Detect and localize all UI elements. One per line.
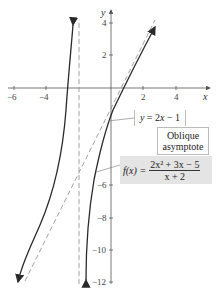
function-equation-label: f(x) = 2x² + 3x − 5 x + 2	[120, 156, 212, 184]
fx-numerator: 2x² + 3x − 5	[149, 159, 200, 171]
function-curve-left-branch	[18, 25, 73, 282]
y-axis-label: y	[100, 7, 106, 18]
fx-fraction: 2x² + 3x − 5 x + 2	[149, 159, 200, 182]
oblique-asymptote-label: Oblique asymptote	[157, 127, 209, 155]
y-tick-label: −12	[92, 277, 106, 287]
x-tick-label: 2	[141, 92, 146, 102]
oblique-label-line1: Oblique	[158, 130, 208, 141]
asymptote-equation-label: y = 2x − 1	[134, 110, 186, 126]
y-tick-label: −6	[97, 180, 107, 190]
function-curve-right-branch	[86, 27, 155, 280]
y-tick-label: 2	[102, 50, 107, 60]
x-tick-label: −6	[7, 92, 17, 102]
x-tick-label: 4	[174, 92, 179, 102]
oblique-asymptote	[25, 20, 155, 281]
y-tick-label: −10	[92, 245, 107, 255]
y-tick-label: −8	[97, 213, 107, 223]
y-tick-label: 4	[102, 18, 107, 28]
x-tick-label: −4	[39, 92, 49, 102]
fx-denominator: x + 2	[164, 171, 185, 182]
fx-leader-line	[96, 165, 120, 172]
eq-part: = 2	[144, 112, 160, 123]
fx-lhs: f(x) =	[123, 165, 146, 176]
asymptote-leader-line	[108, 118, 134, 121]
oblique-label-line2: asymptote	[158, 141, 208, 152]
x-axis-label: x	[202, 91, 208, 102]
eq-part: − 1	[164, 112, 180, 123]
